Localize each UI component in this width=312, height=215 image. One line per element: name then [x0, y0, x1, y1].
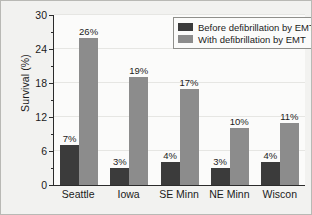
bar: 11% — [280, 123, 299, 185]
x-axis-label: Wiscon — [255, 188, 305, 200]
bar: 4% — [261, 162, 280, 185]
y-tick-label: 12 — [35, 111, 47, 123]
y-tick-label: 18 — [35, 77, 47, 89]
y-tick-label: 30 — [35, 9, 47, 21]
y-tick-mark — [49, 185, 54, 186]
bar: 3% — [211, 168, 230, 185]
bar-value-label: 19% — [129, 65, 148, 76]
y-axis-title: Survival (%) — [19, 13, 31, 153]
bar-value-label: 10% — [230, 116, 249, 127]
legend-swatch-icon — [178, 35, 193, 43]
bar-value-label: 7% — [63, 133, 77, 144]
bar: 3% — [110, 168, 129, 185]
x-axis-label: SE Minn — [154, 188, 204, 200]
bar-value-label: 3% — [113, 156, 127, 167]
bar: 4% — [161, 162, 180, 185]
x-axis-label: NE Minn — [204, 188, 254, 200]
y-tick-label: 6 — [41, 145, 47, 157]
chart-legend: Before defibrillation by EMT With defibr… — [173, 17, 312, 49]
bar-value-label: 3% — [213, 156, 227, 167]
bar: 17% — [180, 89, 199, 185]
x-axis-label: Iowa — [103, 188, 153, 200]
bar: 26% — [79, 38, 98, 185]
bar-value-label: 17% — [179, 77, 198, 88]
bar-value-label: 4% — [264, 150, 278, 161]
bar-value-label: 4% — [163, 150, 177, 161]
x-axis-labels: SeattleIowaSE MinnNE MinnWiscon — [53, 188, 305, 200]
legend-item-label: Before defibrillation by EMT — [198, 22, 312, 33]
y-tick-label: 0 — [41, 179, 47, 191]
x-axis-label: Seattle — [53, 188, 103, 200]
bar: 10% — [230, 128, 249, 185]
bar: 7% — [60, 145, 79, 185]
legend-item-label: With defibrillation by EMT — [198, 34, 306, 45]
bar-group: 7%26% — [54, 15, 104, 185]
bar-value-label: 26% — [79, 26, 98, 37]
y-tick-label: 24 — [35, 43, 47, 55]
chart-figure: Survival (%) 0612182430 7%26%3%19%4%17%3… — [0, 0, 312, 215]
bar: 19% — [129, 77, 148, 185]
bar-value-label: 11% — [280, 111, 298, 122]
legend-item: With defibrillation by EMT — [178, 33, 312, 45]
bar-group: 3%19% — [104, 15, 154, 185]
legend-swatch-icon — [178, 23, 193, 31]
legend-item: Before defibrillation by EMT — [178, 21, 312, 33]
